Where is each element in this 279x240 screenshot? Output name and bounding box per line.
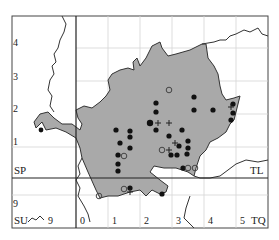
axis-label-su-easting-9: 9 (48, 216, 53, 226)
square-label-tq: TQ (251, 215, 266, 226)
square-label-tl: TL (250, 165, 263, 176)
square-label-sp: SP (14, 165, 26, 176)
axis-label-east-3: 3 (176, 216, 181, 226)
square-label-su: SU (14, 215, 28, 226)
distribution-map (0, 0, 279, 240)
axis-label-east-4: 4 (208, 216, 213, 226)
axis-label-east-1: 1 (112, 216, 117, 226)
axis-label-north-2: 2 (13, 104, 18, 114)
axis-label-east-5: 5 (240, 216, 245, 226)
axis-label-north-3: 3 (13, 72, 18, 82)
axis-label-north-9: 9 (13, 199, 18, 209)
axis-label-east-0: 0 (80, 216, 85, 226)
axis-label-north-4: 4 (13, 38, 18, 48)
axis-label-east-2: 2 (144, 216, 149, 226)
axis-label-north-1: 1 (13, 137, 18, 147)
